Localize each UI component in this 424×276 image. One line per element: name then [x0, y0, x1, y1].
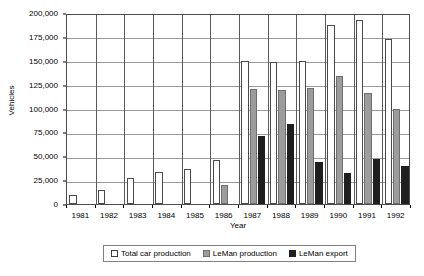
category-separator — [325, 15, 326, 204]
bar-leman — [221, 185, 229, 204]
bar-total — [385, 39, 393, 204]
bar-group — [241, 15, 265, 204]
legend-swatch-icon — [289, 250, 296, 257]
category-separator — [210, 15, 211, 204]
bar-leman — [250, 89, 258, 204]
bar-total — [356, 20, 364, 204]
x-axis-tick-mark — [123, 205, 124, 208]
category-separator — [296, 15, 297, 204]
bar-leman — [364, 93, 372, 204]
bar-export — [373, 159, 381, 204]
x-axis-tick-mark — [209, 205, 210, 208]
category-separator — [124, 15, 125, 204]
category-separator — [239, 15, 240, 204]
y-axis-tick-label: 175,000 — [29, 34, 58, 42]
y-axis-tick-label: 0 — [54, 201, 58, 209]
x-axis-tick-mark — [181, 205, 182, 208]
category-separator — [153, 15, 154, 204]
x-axis-tick-mark — [295, 205, 296, 208]
bar-group — [356, 15, 380, 204]
bar-group — [69, 15, 93, 204]
category-separator — [382, 15, 383, 204]
x-axis-tick-mark — [381, 205, 382, 208]
x-axis-tick-mark — [66, 205, 67, 208]
bar-leman — [393, 109, 401, 205]
y-axis-tick-label: 25,000 — [34, 177, 58, 185]
x-axis-tick-label: 1982 — [100, 211, 118, 220]
legend-item[interactable]: LeMan export — [289, 249, 348, 258]
x-axis-tick-mark — [324, 205, 325, 208]
category-separator — [354, 15, 355, 204]
bar-group — [213, 15, 237, 204]
bar-export — [315, 162, 323, 204]
bar-group — [299, 15, 323, 204]
x-axis-tick-label: 1981 — [71, 211, 89, 220]
legend-label: LeMan export — [299, 249, 348, 258]
x-axis-tick-label: 1987 — [243, 211, 261, 220]
legend-label: LeMan production — [213, 249, 277, 258]
bar-group — [155, 15, 179, 204]
x-axis-title: Year — [66, 221, 410, 230]
x-axis-tick-mark — [353, 205, 354, 208]
x-axis-tick-label: 1985 — [186, 211, 204, 220]
x-axis-tick-mark — [152, 205, 153, 208]
x-axis-tick-mark — [410, 205, 411, 208]
x-axis-tick-mark — [95, 205, 96, 208]
y-axis-tick-label: 75,000 — [34, 129, 58, 137]
bar-total — [127, 178, 135, 204]
bar-chart: Vehicles 025,00050,00075,000100,000125,0… — [0, 0, 424, 276]
x-axis-tick-label: 1986 — [215, 211, 233, 220]
y-axis-tick-labels: 025,00050,00075,000100,000125,000150,000… — [0, 0, 62, 276]
legend-item[interactable]: LeMan production — [203, 249, 277, 258]
x-axis-tick-label: 1984 — [157, 211, 175, 220]
legend-swatch-icon — [203, 250, 210, 257]
plot-area — [66, 14, 410, 205]
bar-group — [385, 15, 409, 204]
x-axis-tick-label: 1989 — [301, 211, 319, 220]
legend-label: Total car production — [121, 249, 191, 258]
bar-export — [258, 136, 266, 204]
y-axis-tick-label: 200,000 — [29, 10, 58, 18]
x-axis-tick-label: 1991 — [358, 211, 376, 220]
bar-export — [287, 124, 295, 204]
y-axis-tick-label: 50,000 — [34, 153, 58, 161]
bar-group — [270, 15, 294, 204]
x-axis-tick-mark — [238, 205, 239, 208]
bar-total — [270, 62, 278, 204]
bar-total — [98, 190, 106, 204]
category-separator — [268, 15, 269, 204]
bar-total — [241, 61, 249, 204]
bar-group — [98, 15, 122, 204]
bar-leman — [336, 76, 344, 204]
chart-legend: Total car productionLeMan productionLeMa… — [103, 245, 356, 262]
x-axis-tick-label: 1992 — [387, 211, 405, 220]
bar-leman — [307, 88, 315, 205]
x-axis-tick-label: 1983 — [129, 211, 147, 220]
bar-export — [344, 173, 352, 205]
bar-group — [184, 15, 208, 204]
bar-total — [69, 195, 77, 204]
bar-total — [299, 61, 307, 204]
bar-export — [401, 166, 409, 204]
x-axis-tick-mark — [267, 205, 268, 208]
y-axis-tick-label: 125,000 — [29, 82, 58, 90]
category-separator — [182, 15, 183, 204]
category-separator — [96, 15, 97, 204]
bar-group — [127, 15, 151, 204]
x-axis-tick-label: 1990 — [329, 211, 347, 220]
bar-total — [213, 160, 221, 204]
bar-total — [327, 25, 335, 204]
bar-total — [184, 169, 192, 204]
y-axis-tick-label: 100,000 — [29, 106, 58, 114]
bar-leman — [278, 90, 286, 204]
legend-swatch-icon — [111, 250, 118, 257]
bar-total — [155, 172, 163, 204]
bar-group — [327, 15, 351, 204]
y-axis-tick-label: 150,000 — [29, 58, 58, 66]
legend-item[interactable]: Total car production — [111, 249, 191, 258]
x-axis-tick-label: 1988 — [272, 211, 290, 220]
